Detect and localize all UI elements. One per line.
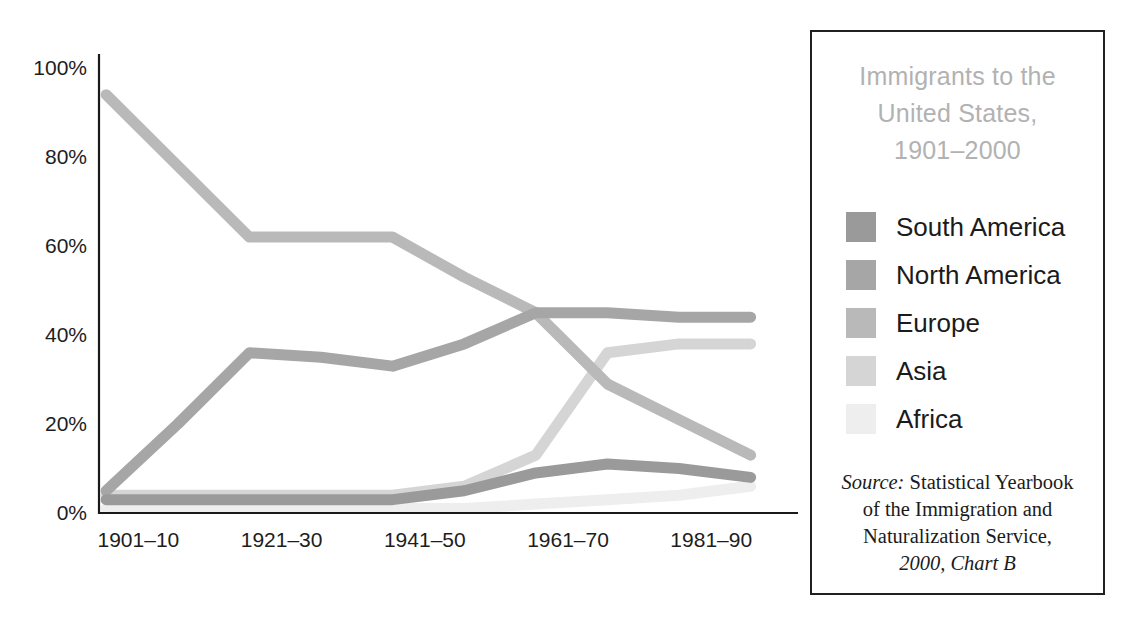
source-line-2: of the Immigration and bbox=[863, 498, 1053, 520]
y-tick-label: 20% bbox=[45, 412, 87, 435]
legend-item-south-america[interactable]: South America bbox=[846, 203, 1085, 251]
source-note: Source: Statistical Yearbook of the Immi… bbox=[836, 469, 1079, 577]
line-chart: 0%20%40%60%80%100% 1901–101921–301941–50… bbox=[0, 0, 806, 620]
legend-item-label: Europe bbox=[896, 310, 980, 336]
series-group bbox=[106, 95, 750, 509]
source-label: Source: bbox=[841, 471, 904, 493]
legend-item-north-america[interactable]: North America bbox=[846, 251, 1085, 299]
legend-swatch-icon bbox=[846, 356, 876, 386]
y-tick-label: 0% bbox=[57, 501, 87, 524]
y-tick-label: 40% bbox=[45, 323, 87, 346]
y-tick-label: 80% bbox=[45, 145, 87, 168]
source-line-3: Naturalization Service, bbox=[863, 525, 1052, 547]
legend-title-line-2: United States, bbox=[830, 95, 1085, 132]
x-tick-label: 1981–90 bbox=[670, 528, 752, 551]
legend-item-list: South AmericaNorth AmericaEuropeAsiaAfri… bbox=[846, 203, 1085, 443]
source-line-1: Statistical Yearbook bbox=[904, 471, 1073, 493]
axes-group bbox=[99, 54, 798, 513]
legend-swatch-icon bbox=[846, 212, 876, 242]
legend-item-label: Africa bbox=[896, 406, 962, 432]
legend-title-line-3: 1901–2000 bbox=[830, 132, 1085, 169]
legend-title: Immigrants to the United States, 1901–20… bbox=[830, 58, 1085, 169]
legend-title-line-1: Immigrants to the bbox=[830, 58, 1085, 95]
y-tick-label: 100% bbox=[33, 56, 87, 79]
legend-item-label: North America bbox=[896, 262, 1061, 288]
x-tick-label: 1961–70 bbox=[527, 528, 609, 551]
legend-swatch-icon bbox=[846, 308, 876, 338]
chart-canvas: 0%20%40%60%80%100% 1901–101921–301941–50… bbox=[0, 0, 806, 620]
legend-item-asia[interactable]: Asia bbox=[846, 347, 1085, 395]
x-tick-labels: 1901–101921–301941–501961–701981–90 bbox=[98, 528, 753, 551]
legend-swatch-icon bbox=[846, 404, 876, 434]
x-tick-label: 1941–50 bbox=[384, 528, 466, 551]
x-tick-label: 1921–30 bbox=[241, 528, 323, 551]
x-tick-label: 1901–10 bbox=[98, 528, 180, 551]
chart-page: 0%20%40%60%80%100% 1901–101921–301941–50… bbox=[0, 0, 1122, 620]
legend-item-label: Asia bbox=[896, 358, 947, 384]
series-line-asia bbox=[106, 344, 750, 495]
axis-lines bbox=[99, 54, 798, 513]
legend-item-europe[interactable]: Europe bbox=[846, 299, 1085, 347]
legend-item-label: South America bbox=[896, 214, 1065, 240]
y-tick-labels: 0%20%40%60%80%100% bbox=[33, 56, 87, 524]
y-tick-label: 60% bbox=[45, 234, 87, 257]
legend-box: Immigrants to the United States, 1901–20… bbox=[810, 30, 1105, 595]
legend-item-africa[interactable]: Africa bbox=[846, 395, 1085, 443]
source-line-4: 2000, Chart B bbox=[899, 552, 1016, 574]
legend-swatch-icon bbox=[846, 260, 876, 290]
